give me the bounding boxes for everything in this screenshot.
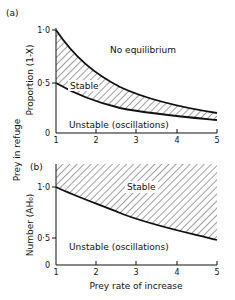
figure: Prey in refuge (a) Proportion (1-X) 1·0 … bbox=[0, 0, 235, 300]
panel-a-unstable-label: Unstable (oscillations) bbox=[69, 120, 169, 130]
panel-a-stable-label: Stable bbox=[70, 81, 99, 91]
panel-a-no-equilibrium-label: No equilibrium bbox=[110, 45, 176, 55]
panel-b-xtick: 4 bbox=[174, 268, 179, 277]
panel-a: (a) Proportion (1-X) 1·0 0·5 0 1 2 3 4 5… bbox=[6, 8, 220, 145]
panel-a-ytick: 0·5 bbox=[37, 79, 50, 88]
panel-b-y-label: Number (AH₀) bbox=[25, 194, 35, 257]
panel-b-stable-region bbox=[56, 164, 217, 240]
panel-a-ytick: 1·0 bbox=[37, 26, 50, 35]
panel-b-xtick: 2 bbox=[93, 268, 98, 277]
panel-b-xtick: 3 bbox=[133, 268, 138, 277]
panel-a-xtick: 4 bbox=[174, 136, 179, 145]
panel-b-xtick: 5 bbox=[214, 268, 219, 277]
panel-a-ytick: 0 bbox=[45, 129, 50, 138]
panel-b-xtick: 1 bbox=[53, 268, 58, 277]
panel-a-xtick: 2 bbox=[93, 136, 98, 145]
panel-b-ytick: 0·5 bbox=[37, 234, 50, 243]
panel-b-stable-label: Stable bbox=[127, 182, 156, 192]
panel-a-xtick: 5 bbox=[214, 136, 219, 145]
panel-b-ytick: 1·0 bbox=[37, 183, 50, 192]
panel-b-label: (b) bbox=[30, 162, 43, 172]
panel-a-y-label: Proportion (1-X) bbox=[25, 44, 35, 115]
panel-a-label: (a) bbox=[6, 8, 19, 18]
panel-b-unstable-label: Unstable (oscillations) bbox=[69, 242, 169, 252]
shared-y-label: Prey in refuge bbox=[12, 118, 22, 181]
panel-b-ytick: 0 bbox=[45, 261, 50, 270]
panel-b: (b) Number (AH₀) 1·0 0·5 0 1 2 3 4 5 Sta… bbox=[25, 162, 220, 291]
panel-a-xtick: 1 bbox=[53, 136, 58, 145]
panel-a-xtick: 3 bbox=[133, 136, 138, 145]
panel-a-stable-region bbox=[56, 30, 217, 120]
x-axis-label: Prey rate of increase bbox=[89, 281, 183, 291]
